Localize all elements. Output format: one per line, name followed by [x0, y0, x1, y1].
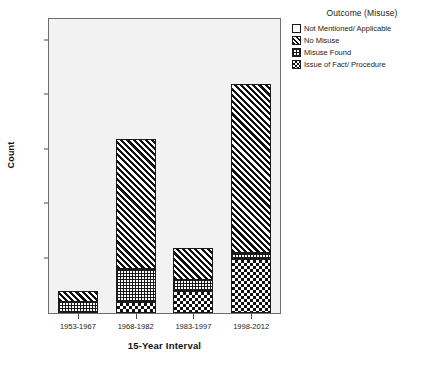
x-tick-mark: [78, 314, 79, 319]
bar-segment[interactable]: [116, 139, 156, 270]
bar-segment[interactable]: [173, 280, 213, 291]
y-tick-mark: [44, 257, 48, 258]
bar-stack[interactable]: [116, 19, 156, 313]
legend-item[interactable]: Issue of Fact/ Procedure: [292, 59, 432, 70]
legend-item-label: Issue of Fact/ Procedure: [304, 60, 386, 69]
bars-container: [49, 19, 280, 313]
plot-area: [48, 18, 281, 314]
y-tick-mark: [44, 94, 48, 95]
legend-item[interactable]: No Misuse: [292, 35, 432, 46]
x-tick-label: 1998-2012: [216, 322, 286, 331]
bar-segment[interactable]: [116, 302, 156, 313]
y-axis-title: Count: [6, 115, 16, 195]
bar-segment[interactable]: [173, 248, 213, 281]
legend-item-label: Not Mentioned/ Applicable: [304, 24, 391, 33]
bar-segment[interactable]: [58, 302, 98, 313]
legend-item-label: No Misuse: [304, 36, 339, 45]
x-tick-mark: [251, 314, 252, 319]
bar-segment[interactable]: [231, 259, 271, 313]
bar-stack[interactable]: [173, 19, 213, 313]
legend-item-label: Misuse Found: [304, 48, 351, 57]
legend-swatch-icon: [292, 36, 301, 45]
legend-swatch-icon: [292, 60, 301, 69]
bar-chart-figure: 510152025 Count 15-Year Interval Outcome…: [0, 0, 435, 368]
bar-segment[interactable]: [116, 269, 156, 302]
bar-segment[interactable]: [231, 253, 271, 258]
legend-title: Outcome (Misuse): [292, 8, 432, 18]
x-tick-mark: [193, 314, 194, 319]
y-tick-mark: [44, 39, 48, 40]
bar-segment[interactable]: [173, 291, 213, 313]
legend: Outcome (Misuse) Not Mentioned/ Applicab…: [292, 8, 432, 71]
y-tick-mark: [44, 148, 48, 149]
bar-segment[interactable]: [58, 291, 98, 302]
legend-items: Not Mentioned/ ApplicableNo MisuseMisuse…: [292, 23, 432, 70]
bar-segment[interactable]: [231, 84, 271, 253]
x-axis-title: 15-Year Interval: [48, 340, 281, 351]
legend-item[interactable]: Misuse Found: [292, 47, 432, 58]
x-tick-mark: [136, 314, 137, 319]
legend-swatch-icon: [292, 24, 301, 33]
legend-swatch-icon: [292, 48, 301, 57]
legend-item[interactable]: Not Mentioned/ Applicable: [292, 23, 432, 34]
y-tick-mark: [44, 203, 48, 204]
bar-stack[interactable]: [58, 19, 98, 313]
bar-stack[interactable]: [231, 19, 271, 313]
